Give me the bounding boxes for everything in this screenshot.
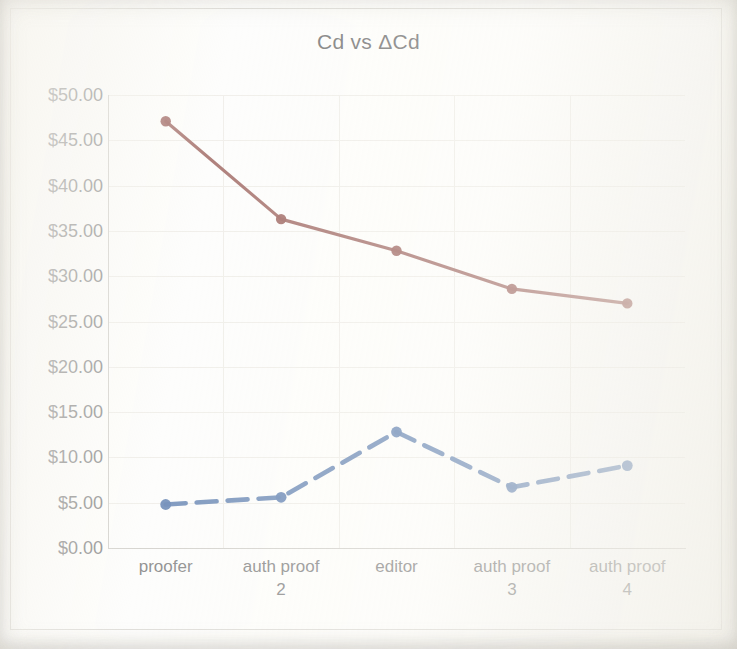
chart-plot-svg: [0, 0, 737, 649]
data-point-marker: [391, 246, 401, 256]
data-point-marker: [160, 499, 171, 510]
data-point-marker: [161, 116, 171, 126]
data-point-marker: [622, 298, 632, 308]
data-point-marker: [391, 427, 402, 438]
data-point-marker: [276, 492, 287, 503]
chart-screenshot: Cd vs ΔCd $50.00$45.00$40.00$35.00$30.00…: [0, 0, 737, 649]
data-point-marker: [507, 284, 517, 294]
data-point-marker: [507, 482, 518, 493]
data-point-marker: [622, 460, 633, 471]
series-line-cd: [166, 121, 628, 303]
data-point-marker: [276, 214, 286, 224]
series-line-delta-cd: [166, 432, 628, 505]
